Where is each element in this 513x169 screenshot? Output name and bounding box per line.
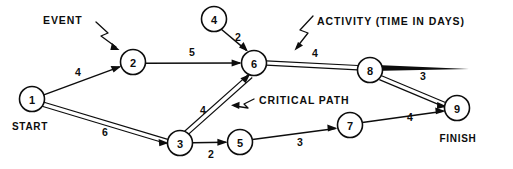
- edge-3-6-arrowhead: [240, 74, 250, 83]
- edge-3-6-line-b: [188, 78, 252, 135]
- edge-7-9: [362, 107, 445, 122]
- edge-weight-1-2: 4: [75, 66, 81, 78]
- edge-weight-4-6: 2: [235, 31, 241, 43]
- pert-network-diagram: 4 6 5 2 4 2 3 4 4 3 1 2 3: [0, 0, 513, 169]
- edge-5-7-arrowhead: [327, 125, 337, 132]
- edge-weight-1-3: 6: [102, 126, 108, 138]
- callout-event: EVENT: [43, 14, 120, 50]
- edge-1-2-line: [44, 67, 120, 95]
- start-label: START: [12, 121, 48, 132]
- callout-event-leader-squiggle: [96, 22, 116, 47]
- callout-event-label: EVENT: [43, 14, 83, 26]
- edge-5-7: [252, 125, 337, 140]
- node-4-label: 4: [211, 14, 218, 26]
- node-6-label: 6: [251, 58, 257, 70]
- callout-critical-path-label: CRITICAL PATH: [259, 94, 349, 106]
- edge-8-9-line-a: [381, 76, 447, 104]
- edge-1-2: [44, 66, 121, 95]
- edge-8-9-line-b: [379, 80, 445, 108]
- node-4[interactable]: 4: [202, 7, 227, 32]
- node-2[interactable]: 2: [121, 50, 146, 75]
- edge-weight-8-9: 3: [420, 70, 426, 82]
- edge-4-6-arrowhead: [239, 42, 248, 52]
- edge-8-9: [379, 76, 447, 110]
- node-1[interactable]: 1: [20, 87, 45, 112]
- node-7-label: 7: [347, 120, 353, 132]
- edge-weight-5-7: 3: [297, 136, 303, 148]
- callout-activity: ACTIVITY (TIME IN DAYS): [295, 15, 465, 51]
- node-1-label: 1: [29, 94, 35, 106]
- edge-3-6: [185, 74, 253, 134]
- edge-7-9-line: [362, 111, 443, 122]
- node-3-label: 3: [177, 138, 183, 150]
- callout-critical-path: CRITICAL PATH: [231, 94, 349, 109]
- callout-activity-arrowhead: [295, 42, 304, 51]
- edge-weight-7-9: 4: [407, 111, 413, 123]
- node-9[interactable]: 9: [445, 96, 470, 121]
- node-3[interactable]: 3: [168, 131, 193, 156]
- edge-1-2-arrowhead: [111, 66, 122, 73]
- node-5-label: 5: [237, 137, 243, 149]
- edge-weight-3-6: 4: [200, 104, 206, 116]
- finish-label: FINISH: [440, 133, 477, 144]
- edge-3-5: [193, 139, 228, 146]
- edge-3-5-arrowhead: [217, 139, 227, 146]
- node-5[interactable]: 5: [228, 130, 253, 155]
- node-6[interactable]: 6: [242, 51, 267, 76]
- callout-activity-label: ACTIVITY (TIME IN DAYS): [317, 15, 465, 27]
- edge-weight-2-6: 5: [189, 46, 195, 58]
- edge-5-7-line: [252, 128, 335, 139]
- edge-1-3: [42, 102, 169, 146]
- edge-6-8-line-a: [266, 61, 358, 66]
- node-7[interactable]: 7: [338, 113, 363, 138]
- edge-weight-6-8: 4: [312, 47, 318, 59]
- node-9-label: 9: [454, 103, 460, 115]
- callout-activity-leader-squiggle: [297, 16, 313, 47]
- node-8-label: 8: [367, 65, 373, 77]
- edge-weight-3-5: 2: [208, 148, 214, 160]
- edge-2-6: [146, 60, 242, 67]
- callout-critical-path-arrowhead: [231, 102, 240, 109]
- node-8[interactable]: 8: [358, 58, 383, 83]
- node-2-label: 2: [130, 57, 136, 69]
- edge-6-8-line-b: [266, 65, 358, 70]
- network-diagram-canvas: 4 6 5 2 4 2 3 4 4 3 1 2 3: [0, 0, 513, 169]
- edge-2-6-arrowhead: [232, 60, 242, 67]
